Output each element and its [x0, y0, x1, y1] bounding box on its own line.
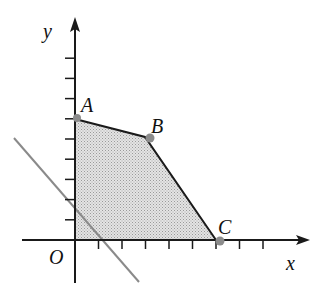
point-a-label: A [79, 94, 94, 116]
point-b-label: B [151, 115, 163, 137]
point-a-marker [73, 114, 81, 122]
point-c-label: C [218, 216, 232, 238]
y-axis-ticks [65, 58, 75, 220]
diagram-canvas: A B C O x y [0, 0, 324, 300]
x-axis-label: x [285, 252, 295, 274]
x-axis-ticks [99, 240, 264, 249]
origin-label: O [49, 246, 63, 268]
y-axis-label: y [41, 20, 52, 43]
